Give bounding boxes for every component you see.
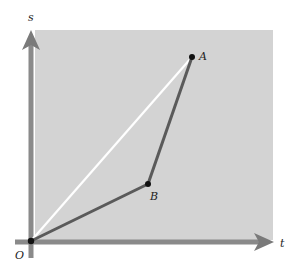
point-o-marker xyxy=(28,238,34,244)
position-time-diagram xyxy=(0,0,300,269)
segment-b-to-a xyxy=(148,57,192,184)
chord-o-to-a xyxy=(31,57,192,241)
point-a-marker xyxy=(189,54,195,60)
point-a-label: A xyxy=(199,51,207,62)
s-axis-label: s xyxy=(28,12,34,23)
point-b-label: B xyxy=(150,191,158,202)
point-b-marker xyxy=(145,181,151,187)
point-o-label: O xyxy=(15,250,24,261)
segment-o-to-b xyxy=(31,184,148,241)
t-axis-label: t xyxy=(280,238,284,249)
